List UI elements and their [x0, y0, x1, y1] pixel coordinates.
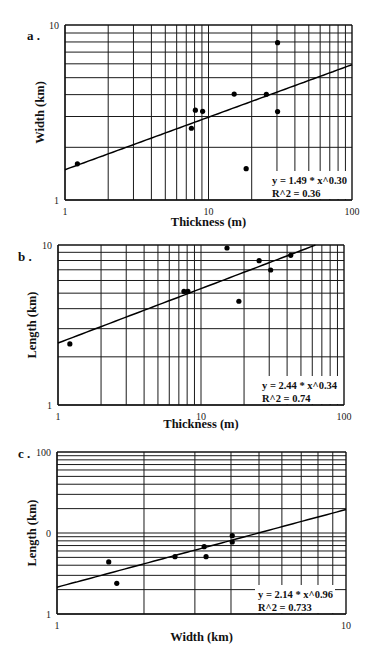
data-point — [275, 109, 280, 114]
y-tick-label: 0 — [46, 528, 51, 539]
data-point — [288, 253, 293, 258]
x-tick-label: 1 — [56, 411, 61, 422]
r-squared: R^2 = 0.733 — [258, 602, 312, 613]
chart-panel-c: 11010100Width (km)Length (km)c .y = 2.14… — [18, 446, 351, 644]
panel-label: a . — [27, 28, 40, 43]
data-point — [172, 554, 177, 559]
data-point — [264, 92, 269, 97]
chart-panel-b: 110100110Thickness (m)Length (km)b .y = … — [18, 240, 352, 431]
x-tick-label: 1 — [55, 620, 60, 631]
x-axis-label: Width (km) — [170, 630, 233, 644]
data-point — [114, 581, 119, 586]
data-point — [106, 559, 111, 564]
data-point — [67, 341, 72, 346]
panel-label: c . — [18, 446, 30, 461]
panel-label: b . — [18, 249, 32, 264]
y-tick-label: 100 — [36, 447, 51, 458]
y-tick-label: 10 — [42, 240, 52, 251]
x-tick-label: 1 — [63, 206, 68, 217]
r-squared: R^2 = 0.74 — [262, 393, 311, 404]
r-squared: R^2 = 0.36 — [272, 188, 321, 199]
x-tick-label: 10 — [341, 620, 351, 631]
y-axis-label: Width (km) — [33, 81, 47, 144]
data-point — [257, 258, 262, 263]
data-point — [236, 299, 241, 304]
data-point — [230, 539, 235, 544]
figure: 110100110Thickness (m)Width (km)a .y = 1… — [0, 0, 378, 663]
y-tick-label: 1 — [46, 609, 51, 620]
data-point — [189, 126, 194, 131]
x-tick-label: 100 — [345, 206, 360, 217]
fit-equation: y = 2.44 * x^0.34 — [262, 380, 338, 391]
chart-panel-a: 110100110Thickness (m)Width (km)a .y = 1… — [27, 20, 360, 229]
data-point — [230, 533, 235, 538]
fit-equation: y = 2.14 * x^0.96 — [258, 589, 333, 600]
y-tick-label: 1 — [54, 195, 59, 206]
fit-equation: y = 1.49 * x^0.30 — [272, 175, 347, 186]
data-point — [268, 267, 273, 272]
data-point — [224, 245, 229, 250]
data-point — [185, 289, 190, 294]
data-point — [202, 544, 207, 549]
y-axis-label: Length (km) — [25, 291, 39, 358]
data-point — [203, 554, 208, 559]
data-point — [232, 91, 237, 96]
y-tick-label: 1 — [47, 400, 52, 411]
x-tick-label: 100 — [337, 411, 352, 422]
y-axis-label: Length (km) — [25, 499, 39, 566]
data-point — [75, 161, 80, 166]
data-point — [275, 40, 280, 45]
x-axis-label: Thickness (m) — [171, 215, 246, 229]
data-point — [193, 108, 198, 113]
x-axis-label: Thickness (m) — [163, 417, 238, 431]
y-tick-label: 10 — [49, 20, 59, 31]
data-point — [200, 109, 205, 114]
data-point — [244, 166, 249, 171]
